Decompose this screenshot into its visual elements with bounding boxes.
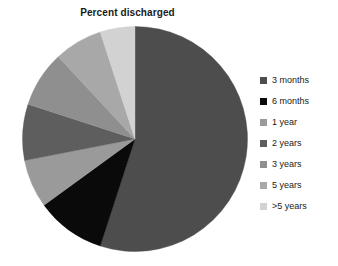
pie-plot-area: [22, 26, 248, 252]
legend-swatch-icon: [260, 182, 267, 189]
legend-swatch-icon: [260, 98, 267, 105]
legend-swatch-icon: [260, 119, 267, 126]
legend-item[interactable]: 6 months: [260, 91, 338, 111]
legend-item-label: 3 years: [272, 159, 302, 170]
legend-item-label: 5 years: [272, 180, 302, 191]
legend-swatch-icon: [260, 140, 267, 147]
legend-item-label: 6 months: [272, 96, 309, 107]
pie-svg: [22, 26, 248, 252]
legend-item[interactable]: >5 years: [260, 196, 338, 216]
chart-title: Percent discharged: [0, 7, 255, 19]
legend-item[interactable]: 2 years: [260, 133, 338, 153]
legend-item-label: >5 years: [272, 201, 307, 212]
legend-swatch-icon: [260, 77, 267, 84]
legend-item-label: 3 months: [272, 75, 309, 86]
legend-item-label: 2 years: [272, 138, 302, 149]
pie-slice-group: [23, 26, 248, 251]
legend-item[interactable]: 5 years: [260, 175, 338, 195]
legend-swatch-icon: [260, 161, 267, 168]
legend-swatch-icon: [260, 203, 267, 210]
legend-item-label: 1 year: [272, 117, 297, 128]
chart-legend: 3 months6 months1 year2 years3 years5 ye…: [260, 70, 338, 217]
legend-item[interactable]: 3 months: [260, 70, 338, 90]
legend-item[interactable]: 3 years: [260, 154, 338, 174]
legend-item[interactable]: 1 year: [260, 112, 338, 132]
pie-chart-figure: Percent discharged 3 months6 months1 yea…: [0, 0, 338, 266]
